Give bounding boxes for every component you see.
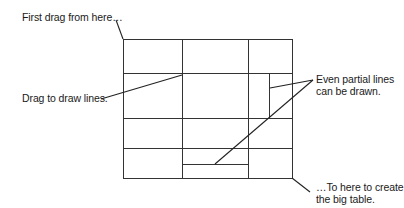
callout-partial-lines-text-1: Even partial lines (316, 73, 394, 85)
leader-partial-horizontal (215, 80, 313, 164)
callout-first-drag-text: First drag from here… (22, 11, 123, 23)
leader-to-here (292, 178, 310, 192)
table-grid (0, 0, 404, 208)
callout-partial-lines: Even partial lines can be drawn. (316, 73, 394, 97)
callout-drag-lines-text: Drag to draw lines. (22, 92, 108, 104)
table-drawing-diagram: First drag from here… Drag to draw lines… (0, 0, 404, 208)
leader-partial-vertical (270, 80, 313, 88)
callout-to-here-text-2: the big table. (316, 193, 404, 205)
leader-drag-lines (101, 75, 182, 99)
callout-drag-lines: Drag to draw lines. (22, 92, 108, 104)
callout-to-here: …To here to create the big table. (316, 181, 404, 205)
callout-to-here-text-1: …To here to create (316, 181, 404, 193)
callout-first-drag: First drag from here… (22, 11, 123, 23)
callout-partial-lines-text-2: can be drawn. (316, 85, 394, 97)
